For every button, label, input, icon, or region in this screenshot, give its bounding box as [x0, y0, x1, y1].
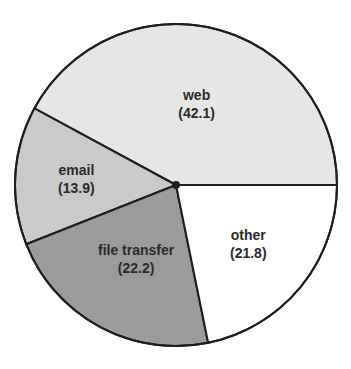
slice-value-web: (42.1): [178, 105, 215, 121]
slice-value-email: (13.9): [58, 180, 95, 196]
slice-label-email: email: [58, 162, 94, 178]
pie-center-dot: [172, 181, 180, 189]
slice-value-file-transfer: (22.2): [118, 260, 155, 276]
slice-label-file-transfer: file transfer: [98, 242, 175, 258]
slice-label-other: other: [231, 227, 267, 243]
slice-label-web: web: [182, 87, 210, 103]
pie-chart: web(42.1)email(13.9)file transfer(22.2)o…: [0, 0, 351, 369]
slice-value-other: (21.8): [230, 245, 267, 261]
